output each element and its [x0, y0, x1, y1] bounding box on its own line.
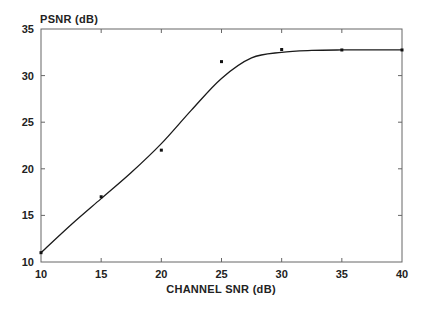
- data-point-marker: [340, 48, 343, 51]
- y-tick-label: 10: [22, 256, 34, 268]
- data-point-marker: [220, 60, 223, 63]
- y-tick-label: 30: [22, 70, 34, 82]
- data-point-marker: [100, 195, 103, 198]
- data-point-marker: [401, 48, 404, 51]
- y-axis-ticks: 101520253035: [22, 23, 402, 268]
- y-tick-label: 15: [22, 209, 34, 221]
- x-axis-title: CHANNEL SNR (dB): [166, 283, 276, 295]
- x-tick-label: 40: [396, 268, 408, 280]
- x-axis-ticks: 10152025303540: [35, 29, 408, 280]
- x-tick-label: 10: [35, 268, 47, 280]
- data-point-marker: [160, 149, 163, 152]
- data-point-marker: [40, 251, 43, 254]
- y-tick-label: 20: [22, 163, 34, 175]
- y-axis-title: PSNR (dB): [40, 13, 98, 25]
- data-point-marker: [280, 48, 283, 51]
- y-tick-label: 35: [22, 23, 34, 35]
- plot-frame: [41, 29, 402, 262]
- x-tick-label: 15: [95, 268, 107, 280]
- x-tick-label: 30: [276, 268, 288, 280]
- x-tick-label: 35: [336, 268, 348, 280]
- y-tick-label: 25: [22, 116, 34, 128]
- x-tick-label: 20: [155, 268, 167, 280]
- fitted-curve: [41, 50, 402, 253]
- x-tick-label: 25: [215, 268, 227, 280]
- psnr-vs-channel-snr-chart: 101520253035 10152025303540 PSNR (dB) CH…: [0, 0, 428, 310]
